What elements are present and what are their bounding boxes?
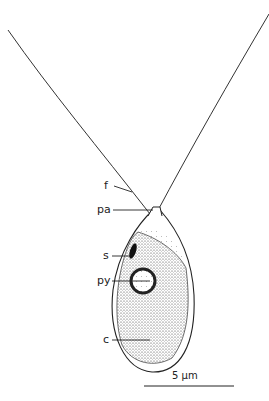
label-py: py	[97, 275, 111, 286]
papilla	[148, 207, 162, 216]
flagellum-right	[156, 14, 269, 214]
label-s: s	[103, 250, 109, 261]
scale-bar-label: 5 µm	[172, 371, 198, 381]
label-c: c	[103, 334, 109, 345]
figure-drawing	[0, 0, 269, 401]
flagellum-left	[8, 30, 150, 214]
label-f: f	[104, 180, 108, 191]
label-pa: pa	[97, 204, 111, 215]
